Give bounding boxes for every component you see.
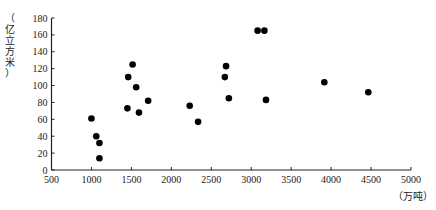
x-tick-label: 1000 xyxy=(81,174,101,185)
y-tick-label: 40 xyxy=(38,131,48,142)
data-point xyxy=(223,63,230,70)
y-axis-label: 立 xyxy=(5,34,15,46)
data-point xyxy=(125,74,132,81)
y-tick-label: 160 xyxy=(33,29,48,40)
plot-area: 5001000150020002500300035004000450050000… xyxy=(0,0,436,210)
data-point xyxy=(186,103,193,110)
data-point xyxy=(96,140,103,147)
x-axis-label: （万吨） xyxy=(393,190,433,202)
y-tick-label: 140 xyxy=(33,46,48,57)
x-tick-label: 2000 xyxy=(161,174,181,185)
x-tick-label: 3000 xyxy=(241,174,261,185)
y-tick-label: 180 xyxy=(33,13,48,24)
x-tick-label: 4500 xyxy=(361,174,381,185)
y-tick-label: 0 xyxy=(43,165,48,176)
data-point xyxy=(93,133,100,140)
scatter-chart: 5001000150020002500300035004000450050000… xyxy=(0,0,436,210)
y-tick-label: 100 xyxy=(33,80,48,91)
x-tick-label: 500 xyxy=(44,174,59,185)
data-point xyxy=(133,84,140,91)
data-point xyxy=(129,61,136,68)
data-point xyxy=(226,95,233,102)
x-tick-label: 2500 xyxy=(201,174,221,185)
x-tick-label: 5000 xyxy=(401,174,421,185)
data-point xyxy=(96,155,103,162)
data-point xyxy=(136,109,143,116)
y-tick-label: 60 xyxy=(38,114,48,125)
data-point xyxy=(195,119,202,126)
data-point xyxy=(263,97,270,104)
data-point xyxy=(261,27,268,34)
y-axis-label: 亿 xyxy=(5,23,15,35)
data-point xyxy=(124,105,131,112)
y-axis-label: 方 xyxy=(5,45,15,57)
y-tick-label: 80 xyxy=(38,97,48,108)
x-tick-label: 1500 xyxy=(121,174,141,185)
x-tick-label: 3500 xyxy=(281,174,301,185)
data-point xyxy=(254,27,261,34)
y-axis-label: （ xyxy=(5,13,15,24)
data-point xyxy=(321,79,328,86)
data-point xyxy=(365,89,372,96)
x-tick-label: 4000 xyxy=(321,174,341,185)
y-tick-label: 120 xyxy=(33,63,48,74)
data-point xyxy=(222,74,229,81)
y-axis-label: 米 xyxy=(5,56,15,68)
data-point xyxy=(88,115,95,122)
data-point xyxy=(145,97,152,104)
y-axis-label: ） xyxy=(5,68,15,79)
y-tick-label: 20 xyxy=(38,148,48,159)
